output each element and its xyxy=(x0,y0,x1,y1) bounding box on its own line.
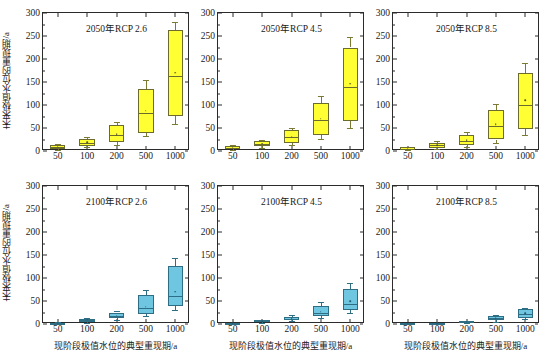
y-tick-label: 200 xyxy=(376,54,393,64)
whisker-upper xyxy=(175,22,176,30)
y-minor-tick-mark xyxy=(393,289,395,290)
mean-marker xyxy=(495,124,497,126)
mean-marker xyxy=(525,100,527,102)
x-tick-mark-top xyxy=(291,13,292,17)
whisker-cap-upper xyxy=(463,132,469,133)
panel-2100RCP4.5: 0501001502002503002100年RCP 4.55010020050… xyxy=(217,185,364,323)
y-tick-mark xyxy=(218,209,222,210)
y-tick-mark xyxy=(393,232,397,233)
x-axis-label-col1: 现阶段极值水位的典型重现期/a xyxy=(217,339,364,352)
y-tick-label: 0 xyxy=(35,146,43,156)
whisker-cap-upper xyxy=(493,104,499,105)
mean-marker xyxy=(175,72,177,74)
whisker-cap-lower xyxy=(113,320,119,321)
y-minor-tick-mark xyxy=(43,312,45,313)
mean-marker xyxy=(436,322,438,324)
y-tick-mark-right xyxy=(360,36,364,37)
y-tick-mark-right xyxy=(535,59,539,60)
y-tick-mark xyxy=(218,36,222,37)
x-tick-label: 1000 xyxy=(516,322,535,334)
y-tick-label: 150 xyxy=(26,77,43,87)
whisker-cap-lower xyxy=(230,150,236,151)
y-tick-mark-right xyxy=(360,232,364,233)
mean-marker xyxy=(175,291,177,293)
x-tick-label: 1000 xyxy=(341,322,360,334)
mean-marker xyxy=(261,320,263,322)
y-tick-mark-right xyxy=(185,278,189,279)
whisker-cap-upper xyxy=(172,22,178,23)
panel-title: 2100年RCP 2.6 xyxy=(43,194,190,208)
x-tick-label: 500 xyxy=(139,322,153,334)
y-tick-mark xyxy=(393,151,397,152)
y-tick-mark xyxy=(43,209,47,210)
y-tick-label: 200 xyxy=(26,54,43,64)
whisker-cap-lower xyxy=(84,323,90,324)
x-tick-label: 500 xyxy=(489,149,503,161)
panel-2050RCP4.5: 0501001502002503002050年RCP 4.55010020050… xyxy=(217,12,364,150)
y-tick-label: 250 xyxy=(201,31,218,41)
y-tick-mark xyxy=(393,128,397,129)
mean-marker xyxy=(525,313,527,315)
median-line xyxy=(343,304,358,305)
x-tick-mark-top xyxy=(262,13,263,17)
y-minor-tick-mark xyxy=(218,93,220,94)
y-tick-label: 200 xyxy=(376,227,393,237)
y-tick-label: 300 xyxy=(26,181,43,191)
y-tick-label: 100 xyxy=(376,100,393,110)
whisker-cap-lower xyxy=(318,318,324,319)
mean-marker xyxy=(466,321,468,323)
y-tick-label: 250 xyxy=(26,204,43,214)
x-tick-mark-top xyxy=(145,186,146,190)
median-line xyxy=(313,313,328,314)
y-minor-tick-mark xyxy=(43,220,45,221)
y-tick-mark xyxy=(218,82,222,83)
y-tick-mark xyxy=(218,128,222,129)
y-minor-tick-mark xyxy=(43,47,45,48)
y-tick-label: 300 xyxy=(201,181,218,191)
y-tick-mark xyxy=(43,301,47,302)
x-tick-mark-top xyxy=(407,186,408,190)
y-tick-label: 200 xyxy=(201,227,218,237)
x-tick-mark-top xyxy=(87,13,88,17)
y-tick-label: 250 xyxy=(201,204,218,214)
y-tick-mark-right xyxy=(360,13,364,14)
plot-area: 0501001502002503002050年RCP 4.55010020050… xyxy=(217,12,364,150)
y-tick-mark-right xyxy=(360,186,364,187)
y-minor-tick-mark xyxy=(43,289,45,290)
y-tick-label: 150 xyxy=(201,77,218,87)
whisker-upper xyxy=(321,96,322,103)
x-tick-mark-top xyxy=(407,13,408,17)
x-axis-label-col0: 现阶段极值水位的典型重现期/a xyxy=(42,339,189,352)
y-minor-tick-mark xyxy=(218,220,220,221)
panel-2050RCP2.6: 0501001502002503002050年RCP 2.65010020050… xyxy=(42,12,189,150)
y-tick-mark-right xyxy=(535,232,539,233)
whisker-cap-lower xyxy=(347,313,353,314)
mean-marker xyxy=(86,141,88,143)
panel-title: 2050年RCP 8.5 xyxy=(393,21,540,35)
x-tick-label: 500 xyxy=(139,149,153,161)
median-line xyxy=(488,126,503,127)
y-tick-label: 0 xyxy=(385,146,393,156)
whisker-cap-lower xyxy=(347,128,353,129)
box xyxy=(138,295,153,314)
y-tick-label: 50 xyxy=(31,296,44,306)
y-tick-mark-right xyxy=(185,209,189,210)
whisker-cap-lower xyxy=(172,124,178,125)
y-minor-tick-mark xyxy=(218,312,220,313)
x-tick-mark-top xyxy=(350,13,351,17)
y-tick-mark xyxy=(43,13,47,14)
y-minor-tick-mark xyxy=(393,70,395,71)
x-axis-label-col2: 现阶段极值水位的典型重现期/a xyxy=(392,339,539,352)
y-tick-mark-right xyxy=(535,278,539,279)
whisker-cap-upper xyxy=(143,80,149,81)
x-tick-mark-top xyxy=(116,13,117,17)
y-tick-mark-right xyxy=(360,82,364,83)
y-tick-mark-right xyxy=(535,105,539,106)
whisker-upper xyxy=(146,80,147,89)
y-tick-label: 50 xyxy=(381,123,394,133)
y-minor-tick-mark xyxy=(393,93,395,94)
y-tick-label: 250 xyxy=(376,204,393,214)
y-tick-label: 50 xyxy=(206,123,219,133)
mean-marker xyxy=(116,133,118,135)
y-minor-tick-mark xyxy=(218,243,220,244)
